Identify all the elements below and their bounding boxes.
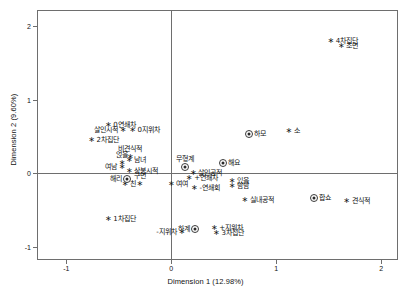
x-axis-tick: [276, 260, 277, 264]
target-marker-icon: [245, 130, 253, 138]
y-axis-tick: [33, 26, 37, 27]
y-axis-tick-label: -1: [20, 243, 31, 250]
data-point-label: -연쇄회: [199, 185, 220, 192]
data-point-label: 합쇼: [319, 195, 331, 202]
asterisk-marker-icon: ∗: [327, 37, 334, 45]
asterisk-marker-icon: ∗: [286, 127, 293, 135]
target-marker-icon: [191, 225, 199, 233]
asterisk-marker-icon: ∗: [120, 126, 127, 134]
data-point-label: 남녀: [134, 157, 146, 164]
asterisk-marker-icon: ∗: [136, 180, 143, 188]
target-marker-icon: [219, 159, 227, 167]
asterisk-marker-icon: ∗: [168, 180, 175, 188]
asterisk-marker-icon: ∗: [119, 163, 126, 171]
data-point-label: 소: [294, 128, 300, 135]
data-point-label: 3차집단: [221, 230, 243, 237]
data-point-label: 0지위차: [137, 127, 159, 134]
data-point-label: 해리: [110, 176, 122, 183]
y-axis-title: Dimension 2 (9.60%): [9, 55, 18, 205]
vertical-zero-reference-line: [171, 10, 172, 260]
data-point-label: 1차집단: [113, 216, 135, 223]
data-point-label: 무형계: [176, 156, 194, 163]
y-axis-tick-label: 0: [20, 170, 31, 177]
data-point-label: -지위차: [156, 229, 177, 236]
x-axis-tick-label: 0: [169, 265, 173, 272]
asterisk-marker-icon: ∗: [88, 136, 95, 144]
data-point-label: 구면: [134, 173, 146, 180]
target-marker-icon: [310, 194, 318, 202]
data-point-label: 실내공적: [250, 197, 274, 204]
asterisk-marker-icon: ∗: [229, 182, 236, 190]
data-point-label: 견식적: [352, 198, 370, 205]
data-point-label: 남남: [237, 183, 249, 190]
y-axis-tick: [33, 173, 37, 174]
data-point-label: 여남: [105, 164, 117, 171]
target-marker-icon: [123, 175, 131, 183]
scatter-plot-figure: -1012-1012 ∗4차집단∗초면∗0연쇄차∗살인시적∗0지위차∗소∗2차집…: [0, 0, 411, 293]
x-axis-tick-label: 2: [379, 265, 383, 272]
data-point-label: 초면: [346, 43, 358, 50]
data-point-label: 해요: [228, 160, 240, 167]
data-point-label: 하계: [178, 226, 190, 233]
asterisk-marker-icon: ∗: [126, 167, 133, 175]
data-point-label: 살인시적: [94, 127, 118, 134]
y-axis-tick: [33, 100, 37, 101]
data-point-label: 얹을: [116, 152, 128, 159]
asterisk-marker-icon: ∗: [343, 197, 350, 205]
data-point-label: 여여: [176, 181, 188, 188]
target-marker-icon: [181, 163, 189, 171]
x-axis-tick-label: -1: [63, 265, 69, 272]
asterisk-marker-icon: ∗: [129, 126, 136, 134]
x-axis-tick-label: 1: [274, 265, 278, 272]
y-axis-tick-label: 1: [20, 96, 31, 103]
y-axis-tick: [33, 247, 37, 248]
x-axis-tick: [66, 260, 67, 264]
x-axis-tick: [171, 260, 172, 264]
x-axis-tick: [381, 260, 382, 264]
data-point-label: 2차집단: [97, 137, 119, 144]
asterisk-marker-icon: ∗: [338, 42, 345, 50]
data-point-label: 친: [130, 181, 136, 188]
y-axis-tick-label: 2: [20, 23, 31, 30]
asterisk-marker-icon: ∗: [241, 196, 248, 204]
data-point-label: 하모: [254, 131, 266, 138]
asterisk-marker-icon: ∗: [191, 184, 198, 192]
data-point-label: +연쇄차: [194, 175, 218, 182]
asterisk-marker-icon: ∗: [213, 229, 220, 237]
asterisk-marker-icon: ∗: [105, 215, 112, 223]
x-axis-title: Dimension 1 (12.98%): [0, 277, 411, 286]
